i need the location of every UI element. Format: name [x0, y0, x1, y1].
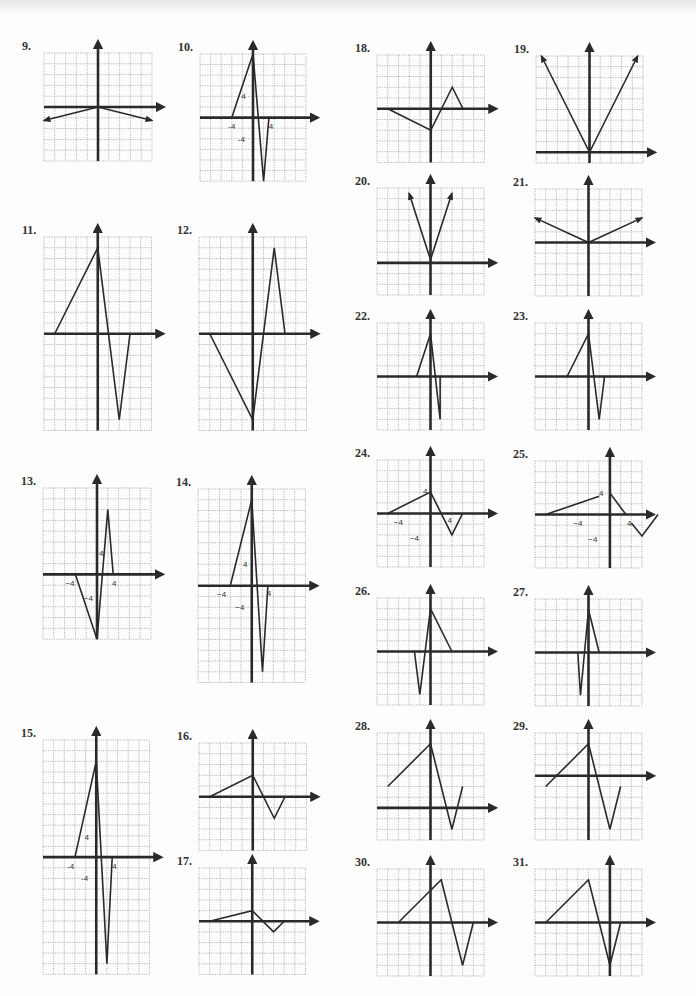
graph-31 [521, 855, 656, 990]
tick-label: -4 [238, 135, 246, 144]
graph-19 [522, 42, 657, 177]
graph-23 [521, 309, 656, 444]
tick-label: -4 [228, 122, 236, 131]
graph-28 [363, 719, 498, 854]
tick-label: 4 [267, 589, 272, 598]
graph-11 [30, 223, 166, 445]
tick-label: 4 [448, 516, 453, 525]
graph-13: −444−4 [29, 474, 165, 653]
tick-label: 4 [627, 519, 632, 528]
tick-label: −4 [410, 534, 420, 543]
graph-17 [185, 854, 320, 989]
tick-label: 4 [99, 549, 104, 558]
graph-24: 4−44−4 [363, 446, 498, 581]
graph-26 [363, 584, 498, 719]
tick-label: 4 [269, 122, 274, 131]
graph-9 [30, 39, 166, 175]
tick-label: −4 [588, 535, 598, 544]
page-top-shadow [0, 0, 696, 14]
tick-label: 4 [112, 862, 117, 871]
graph-30 [363, 855, 498, 990]
function-curve [631, 515, 658, 536]
tick-label: 4 [243, 560, 248, 569]
graph-21 [521, 175, 656, 310]
tick-label: 4 [599, 489, 604, 498]
tick-label: −4 [235, 603, 245, 612]
tick-label: −4 [84, 594, 94, 603]
tick-label: 4 [423, 487, 428, 496]
graph-10: -444-4 [186, 40, 320, 195]
tick-label: −4 [217, 590, 227, 599]
tick-label: −4 [65, 579, 75, 588]
graph-20 [363, 174, 498, 309]
function-curve [546, 496, 600, 514]
graph-25: 4−44−4 [521, 447, 656, 582]
tick-label: 4 [84, 833, 89, 842]
tick-label: 4 [112, 579, 117, 588]
graph-22 [363, 309, 498, 444]
tick-label: -4 [81, 874, 89, 883]
graph-12 [185, 223, 321, 445]
graph-14: −444−4 [184, 475, 320, 697]
graph-27 [521, 585, 656, 720]
graph-15: -444-4 [29, 726, 164, 988]
tick-label: -4 [67, 862, 75, 871]
tick-label: 4 [241, 92, 246, 101]
tick-label: −4 [573, 519, 583, 528]
graph-18 [363, 41, 499, 177]
graph-16 [185, 729, 321, 865]
tick-label: −4 [394, 518, 404, 527]
graph-29 [521, 719, 656, 854]
